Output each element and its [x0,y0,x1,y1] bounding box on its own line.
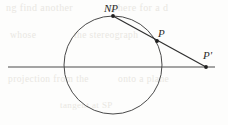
circle-shape [64,16,162,114]
point-marker-p [155,39,159,43]
stereographic-projection-figure: ng find another sphere for a d whose the… [0,0,228,125]
label-point-p: P [158,28,165,39]
projection-ray-line [113,16,206,67]
label-north-pole: NP [104,3,118,14]
label-point-p-prime: P' [203,50,212,61]
point-marker-p-prime [204,65,208,69]
diagram-canvas [0,0,228,125]
point-marker-np [111,14,115,18]
